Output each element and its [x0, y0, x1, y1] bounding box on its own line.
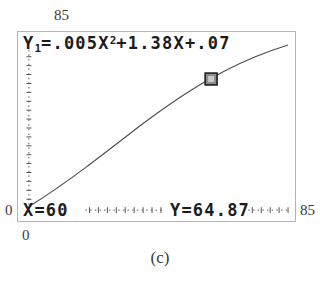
- equation-lhs: Y: [23, 33, 34, 53]
- trace-x-readout: X=60: [23, 202, 69, 219]
- figure-container: 85 0 0 85: [0, 0, 320, 281]
- y-axis-max-label: 85: [54, 8, 69, 23]
- figure-caption: (c): [0, 248, 320, 268]
- calculator-screen: Y1=.005X2+1.38X+.07 X=60 Y=64.87: [17, 31, 296, 222]
- y-axis-min-label: 0: [5, 203, 13, 218]
- plot-area: [18, 32, 295, 221]
- x-axis-max-label: 85: [300, 203, 315, 218]
- trace-cursor-marker: [205, 73, 217, 85]
- parabola-curve: [29, 45, 288, 207]
- equation-rest: +1.38X+.07: [116, 33, 230, 53]
- equation-equals: =.005X: [41, 33, 110, 53]
- x-axis-min-label: 0: [22, 228, 30, 243]
- trace-y-readout: Y=64.87: [170, 202, 250, 219]
- equation-readout: Y1=.005X2+1.38X+.07: [23, 35, 231, 54]
- y-axis-ticks: [26, 50, 31, 207]
